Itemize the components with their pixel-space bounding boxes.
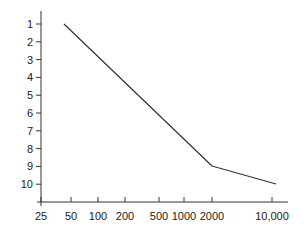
x-tick-label: 100 — [89, 210, 107, 222]
y-tick-label: 5 — [27, 89, 33, 101]
x-tick-label: 2000 — [200, 210, 224, 222]
y-tick-label: 8 — [27, 143, 33, 155]
y-tick-label: 3 — [27, 54, 33, 66]
y-tick-label: 6 — [27, 107, 33, 119]
series-line — [64, 24, 276, 184]
x-tick-label: 10,000 — [255, 210, 289, 222]
y-tick-label: 1 — [27, 18, 33, 30]
x-tick-label: 50 — [65, 210, 77, 222]
data-series — [64, 24, 276, 184]
line-chart: 12345678910 25501002005001000200010,000 — [0, 0, 306, 238]
y-tick-label: 10 — [21, 178, 33, 190]
x-tick-label: 1000 — [172, 210, 196, 222]
x-tick-label: 25 — [35, 210, 47, 222]
x-tick-label: 500 — [150, 210, 168, 222]
y-tick-label: 4 — [27, 71, 33, 83]
y-tick-label: 9 — [27, 160, 33, 172]
x-axis-ticks: 25501002005001000200010,000 — [35, 197, 289, 222]
y-tick-label: 7 — [27, 125, 33, 137]
y-axis-ticks: 12345678910 — [21, 18, 41, 190]
x-tick-label: 200 — [116, 210, 134, 222]
y-tick-label: 2 — [27, 36, 33, 48]
